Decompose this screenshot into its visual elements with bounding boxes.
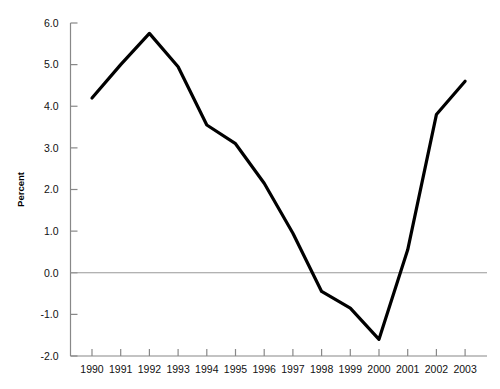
y-tick-label: 0.0 xyxy=(44,267,59,279)
x-tick-label: 1998 xyxy=(310,363,334,375)
y-tick-label: 5.0 xyxy=(44,58,59,70)
data-series-percent xyxy=(92,33,465,339)
x-tick-label: 2003 xyxy=(453,363,477,375)
y-tick-label: 2.0 xyxy=(44,183,59,195)
x-tick-label: 2001 xyxy=(396,363,420,375)
x-tick-label: 1999 xyxy=(339,363,363,375)
x-tick-label: 1994 xyxy=(195,363,219,375)
line-chart: 6.05.04.03.02.01.00.0-1.0-2.0 1990199119… xyxy=(0,0,500,389)
y-tick-label: 6.0 xyxy=(44,17,59,29)
x-axis: 1990199119921993199419951996199719981999… xyxy=(71,349,488,375)
x-tick-label: 1997 xyxy=(281,363,305,375)
y-axis: 6.05.04.03.02.01.00.0-1.0-2.0 xyxy=(40,17,77,362)
x-tick-label: 1991 xyxy=(109,363,133,375)
x-tick-label: 1996 xyxy=(253,363,277,375)
x-tick-label: 2000 xyxy=(367,363,391,375)
y-tick-label: 3.0 xyxy=(44,142,59,154)
x-tick-label: 2002 xyxy=(425,363,449,375)
y-tick-label: 4.0 xyxy=(44,100,59,112)
x-tick-label: 1992 xyxy=(138,363,162,375)
y-axis-title: Percent xyxy=(15,171,26,207)
series-line xyxy=(92,33,465,339)
chart-canvas: 6.05.04.03.02.01.00.0-1.0-2.0 1990199119… xyxy=(0,0,500,389)
x-tick-label: 1993 xyxy=(166,363,190,375)
x-tick-label: 1995 xyxy=(224,363,248,375)
x-tick-label: 1990 xyxy=(80,363,104,375)
y-axis-title-text: Percent xyxy=(15,171,26,207)
y-tick-label: -1.0 xyxy=(40,308,58,320)
y-tick-label: 1.0 xyxy=(44,225,59,237)
y-tick-label: -2.0 xyxy=(40,350,58,362)
